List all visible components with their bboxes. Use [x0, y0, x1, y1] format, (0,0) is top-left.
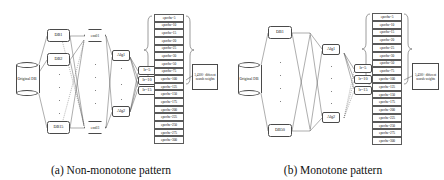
db-ellipsis-dots [279, 62, 281, 102]
epoch-item[interactable]: epochs=10 [154, 22, 184, 30]
epoch-item[interactable]: epochs=250 [154, 121, 184, 129]
epoch-item[interactable]: epochs=150 [154, 90, 184, 98]
epoch-item[interactable]: epochs=275 [154, 129, 184, 137]
algorithm-node-alg1[interactable]: Alg1 [322, 44, 340, 55]
epoch-item[interactable]: epochs=75 [154, 68, 184, 76]
epoch-item[interactable]: epochs=50 [372, 60, 402, 68]
ensemble-node-ens01[interactable]: ens01 [84, 29, 106, 42]
epoch-item[interactable]: epochs=150 [372, 91, 402, 99]
db-node-db2[interactable]: DB2 [47, 53, 70, 66]
epoch-item[interactable]: epochs=250 [372, 122, 402, 130]
epoch-item[interactable]: epochs=20 [154, 37, 184, 45]
epoch-item[interactable]: epochs=225 [154, 113, 184, 121]
panel-non-monotone: Original DB DB1 DB2 DB15 ens01 ens03 Alg… [0, 0, 222, 180]
epoch-item[interactable]: epochs=10 [372, 21, 402, 29]
ensemble-ellipsis-dots [94, 64, 96, 104]
epoch-item[interactable]: epochs=175 [372, 98, 402, 106]
epoch-item[interactable]: epochs=275 [372, 129, 402, 137]
epoch-item[interactable]: epochs=5 [372, 13, 402, 21]
epoch-item[interactable]: epochs=15 [372, 29, 402, 37]
epoch-item[interactable]: epochs=30 [154, 52, 184, 60]
db-node-db1[interactable]: DB1 [47, 29, 70, 42]
epoch-item[interactable]: epochs=20 [372, 36, 402, 44]
epoch-item[interactable]: epochs=50 [154, 60, 184, 68]
epoch-item[interactable]: epochs=125 [154, 83, 184, 91]
epochs-list: epochs=5epochs=10epochs=15epochs=20epoch… [372, 13, 402, 145]
epoch-item[interactable]: epochs=200 [372, 106, 402, 114]
algorithm-node-alg1[interactable]: Alg1 [112, 50, 130, 61]
algorithm-node-alg2[interactable]: Alg2 [112, 106, 130, 117]
db-node-db50[interactable]: DB50 [268, 124, 292, 137]
original-db-cylinder: Original DB [238, 62, 260, 96]
learning-rate-node-lr10[interactable]: lr=10 [354, 75, 372, 84]
epoch-item[interactable]: epochs=5 [154, 14, 184, 22]
summary-box: 5,4300+ different neurals weights [192, 64, 218, 90]
learning-rate-node-lr5[interactable]: lr=5 [354, 64, 372, 73]
epoch-item[interactable]: epochs=25 [154, 45, 184, 53]
epoch-item[interactable]: epochs=100 [372, 75, 402, 83]
db-ellipsis-dots [58, 74, 60, 114]
epochs-list: epochs=5epochs=10epochs=15epochs=20epoch… [154, 14, 184, 144]
epoch-item[interactable]: epochs=200 [154, 106, 184, 114]
ensemble-node-ens03[interactable]: ens03 [84, 121, 106, 134]
epoch-item[interactable]: epochs=75 [372, 67, 402, 75]
db-node-db15[interactable]: DB15 [47, 121, 70, 134]
original-db-cylinder: Original DB [16, 62, 38, 96]
ensemble-label: ens03 [91, 126, 99, 130]
epoch-item[interactable]: epochs=15 [154, 29, 184, 37]
epoch-item[interactable]: epochs=300 [372, 137, 402, 145]
epoch-item[interactable]: epochs=300 [154, 136, 184, 144]
epoch-item[interactable]: epochs=225 [372, 114, 402, 122]
epoch-item[interactable]: epochs=25 [372, 44, 402, 52]
algorithm-ellipsis-dots [330, 66, 332, 104]
summary-box: 5,4300+ different neurals weights [412, 63, 439, 90]
algorithm-ellipsis-dots [120, 68, 122, 100]
ensemble-label: ens01 [91, 34, 99, 38]
panel-monotone: Original DB DB1 DB50 Alg1 Alg2 lr=5 lr=1… [222, 0, 444, 180]
epoch-item[interactable]: epochs=30 [372, 52, 402, 60]
learning-rate-node-lr15[interactable]: lr=15 [354, 86, 372, 95]
original-db-label: Original DB [16, 62, 38, 96]
epoch-item[interactable]: epochs=100 [154, 75, 184, 83]
algorithm-node-alg2[interactable]: Alg2 [322, 112, 340, 123]
epoch-item[interactable]: epochs=175 [154, 98, 184, 106]
original-db-label: Original DB [238, 62, 260, 96]
figure-container: Original DB DB1 DB2 DB15 ens01 ens03 Alg… [0, 0, 444, 180]
epoch-item[interactable]: epochs=125 [372, 83, 402, 91]
db-node-db1[interactable]: DB1 [268, 26, 292, 39]
